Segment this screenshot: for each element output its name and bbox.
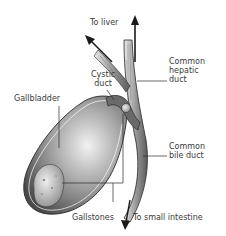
label-to-small-intestine: To small intestine	[133, 213, 203, 222]
label-gallstones: Gallstones	[72, 213, 114, 222]
gallbladder-diagram: To liver Common hepatic duct Cystic duct…	[0, 0, 226, 236]
common-duct	[124, 40, 147, 222]
anatomy-illustration	[0, 0, 226, 236]
label-common-bile-duct: Common bile duct	[169, 142, 205, 160]
label-common-hepatic-duct: Common hepatic duct	[169, 57, 205, 84]
gallstone-small	[122, 104, 131, 113]
label-to-liver: To liver	[90, 18, 118, 27]
label-cystic-duct: Cystic duct	[91, 70, 115, 88]
label-gallbladder: Gallbladder	[14, 94, 60, 103]
